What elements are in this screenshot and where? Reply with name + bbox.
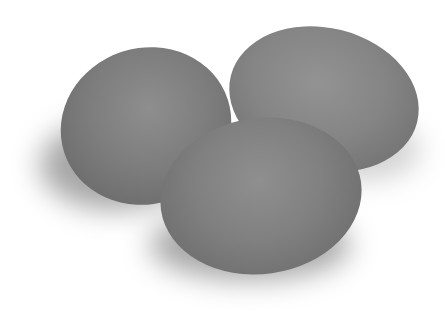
photo-scene [0,0,445,316]
